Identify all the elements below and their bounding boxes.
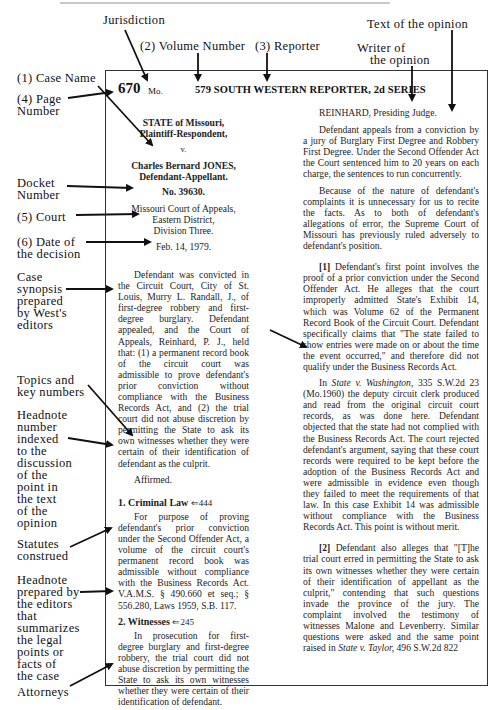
opinion-paragraph-3-text: Defendant's first point involves the pro… xyxy=(303,261,479,372)
court-name-1: Missouri Court of Appeals, xyxy=(118,203,249,214)
opinion-paragraph-4-text: 335 S.W.2d 23 (Mo.1960) the deputy circu… xyxy=(303,377,479,532)
headnote-marker-1: [1] xyxy=(319,261,330,272)
defendant-name: Charles Bernard JONES, xyxy=(118,160,249,171)
label-headnote-prepared: Headnote prepared by the editors that su… xyxy=(17,574,80,682)
label-writer-of-opinion-2: the opinion xyxy=(370,54,430,66)
case-citation-taylor: State v. Taylor, xyxy=(338,642,394,653)
label-date-of-decision-2: the decision xyxy=(17,248,81,260)
label-volume-number: (2) Volume Number xyxy=(140,40,245,52)
label-attorneys: Attorneys xyxy=(17,686,69,698)
left-column: STATE of Missouri, Plaintiff-Respondent,… xyxy=(118,117,249,710)
plaintiff-name: STATE of Missouri, xyxy=(118,117,249,128)
label-line: construed xyxy=(17,550,68,562)
page-number: 670 xyxy=(118,80,141,97)
label-line: the case xyxy=(17,670,80,682)
jurisdiction: Mo. xyxy=(148,86,163,96)
opinion-paragraph-4: In State v. Washington, 335 S.W.2d 23 (M… xyxy=(303,377,479,532)
opinion-paragraph-4-lead: In xyxy=(319,377,327,388)
opinion-paragraph-5-tail: 496 S.W.2d 822 xyxy=(397,642,458,653)
defendant-role: Defendant-Appellant. xyxy=(118,171,249,182)
headnote-1-heading: 1. Criminal Law ⇐444 xyxy=(118,497,249,509)
headnote-1-number: 1. xyxy=(118,497,126,508)
headnote-2-number: 2. xyxy=(118,616,126,627)
key-number-icon: ⇐245 xyxy=(172,617,194,627)
opinion-paragraph-1: Defendant appeals from a conviction by a… xyxy=(303,124,479,179)
plaintiff-role: Plaintiff-Respondent, xyxy=(118,128,249,139)
headnote-2-text: In prosecution for first-degree burglary… xyxy=(118,630,249,708)
court-name-3: Division Three. xyxy=(118,225,249,236)
synopsis-text: Defendant was convicted in the Circuit C… xyxy=(118,269,249,469)
right-column: REINHARD, Presiding Judge. Defendant app… xyxy=(303,107,479,658)
opinion-paragraph-5: [2] Defendant also alleges that "[T]he t… xyxy=(303,542,479,653)
disposition: Affirmed. xyxy=(118,474,249,485)
label-court: (5) Court xyxy=(17,211,66,223)
label-case-synopsis: Case synopsis prepared by West's editors xyxy=(17,271,67,331)
label-line: opinion xyxy=(17,517,72,529)
label-topics-key-numbers: Topics and key numbers xyxy=(17,374,85,398)
opinion-writer: REINHARD, Presiding Judge. xyxy=(303,107,479,118)
decision-date: Feb. 14, 1979. xyxy=(118,241,249,252)
versus: v. xyxy=(118,144,249,155)
label-line: editors xyxy=(17,319,67,331)
opinion-paragraph-2: Because of the nature of defendant's com… xyxy=(303,185,479,252)
label-jurisdiction: Jurisdiction xyxy=(103,14,165,26)
case-citation-washington: State v. Washington, xyxy=(332,377,414,388)
headnote-marker-2: [2] xyxy=(319,542,330,553)
top-edge-line xyxy=(60,2,390,4)
opinion-paragraph-3: [1] Defendant's first point involves the… xyxy=(303,261,479,372)
headnote-1-text: For purpose of proving defendant's prior… xyxy=(118,511,249,611)
headnote-1: 1. Criminal Law ⇐444 For purpose of prov… xyxy=(118,497,249,611)
headnote-2: 2. Witnesses ⇐245 In prosecution for fir… xyxy=(118,616,249,708)
label-headnote-number: Headnote number indexed to the discussio… xyxy=(17,409,72,529)
opinion-paragraph-5-text: Defendant also alleges that "[T]he trial… xyxy=(303,542,479,653)
label-case-name: (1) Case Name xyxy=(17,72,96,84)
label-page-number-2: Number xyxy=(17,105,60,117)
label-statutes-construed: Statutes construed xyxy=(17,538,68,562)
court-name-2: Eastern District, xyxy=(118,214,249,225)
reporter-line: 579 SOUTH WESTERN REPORTER, 2d SERIES xyxy=(195,84,426,95)
headnote-1-topic: Criminal Law xyxy=(128,497,188,508)
headnote-2-heading: 2. Witnesses ⇐245 xyxy=(118,616,249,628)
docket-number: No. 39630. xyxy=(118,186,249,197)
key-number-icon: ⇐444 xyxy=(191,498,213,508)
label-text-of-opinion: Text of the opinion xyxy=(367,18,468,30)
label-reporter: (3) Reporter xyxy=(255,40,320,52)
label-line: key numbers xyxy=(17,386,85,398)
headnote-2-topic: Witnesses xyxy=(128,616,170,627)
label-docket-number-2: Number xyxy=(17,189,60,201)
